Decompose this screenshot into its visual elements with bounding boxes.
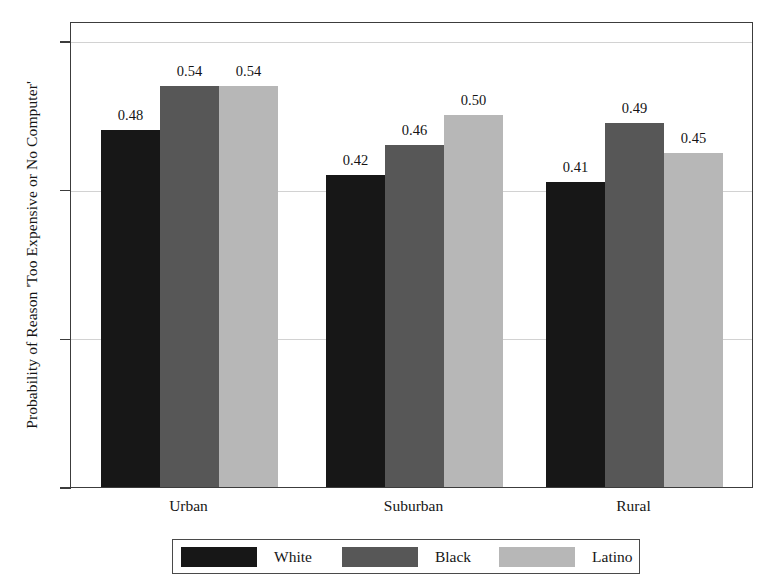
legend: WhiteBlackLatino [172,539,640,574]
x-axis-label-rural: Rural [505,497,762,515]
bar-value-label: 0.45 [654,130,733,147]
y-tick-mark [60,487,71,489]
gridline [71,42,752,43]
plot-area: 0.480.540.540.420.460.500.410.490.45 [71,23,752,487]
bar-suburban-latino [444,115,503,487]
bar-urban-white [101,130,160,487]
bar-chart-figure: Probability of Reason 'Too Expensive or … [0,0,778,587]
bar-rural-white [546,182,605,487]
bar-suburban-black [385,145,444,487]
bar-rural-latino [664,153,723,488]
bar-value-label: 0.42 [316,152,395,169]
y-tick-mark [60,190,71,192]
bar-value-label: 0.54 [209,63,288,80]
y-tick-mark [60,41,71,43]
legend-label-white: White [274,548,312,566]
legend-swatch-white [181,547,257,567]
legend-label-latino: Latino [592,548,632,566]
bar-rural-black [605,123,664,487]
legend-swatch-latino [499,547,575,567]
plot-frame: 0.480.540.540.420.460.500.410.490.45 [70,22,753,488]
bar-value-label: 0.50 [434,92,513,109]
legend-item-latino: Latino [499,540,632,573]
y-tick-mark [60,339,71,341]
bar-value-label: 0.49 [595,100,674,117]
x-axis-label-suburban: Suburban [285,497,542,515]
bar-urban-latino [219,86,278,487]
legend-item-white: White [181,540,312,573]
legend-label-black: Black [435,548,471,566]
bar-value-label: 0.41 [536,159,615,176]
legend-swatch-black [342,547,418,567]
bar-value-label: 0.46 [375,122,454,139]
legend-item-black: Black [342,540,471,573]
bar-value-label: 0.48 [91,107,170,124]
bar-urban-black [160,86,219,487]
bar-suburban-white [326,175,385,487]
x-axis-label-urban: Urban [60,497,317,515]
y-axis-title: Probability of Reason 'Too Expensive or … [23,20,41,490]
